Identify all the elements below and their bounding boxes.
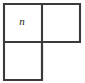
figure-canvas: n xyxy=(0,0,85,83)
bottom-left-square-face xyxy=(4,42,42,80)
square-label-n: n xyxy=(19,15,25,27)
top-right-square-face xyxy=(42,4,80,42)
l-tromino-figure: n xyxy=(0,0,85,83)
